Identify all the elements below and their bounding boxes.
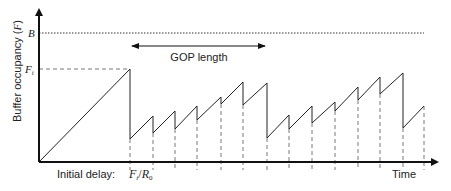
buffer-capacity-label: B bbox=[28, 27, 35, 39]
buffer-occupancy-diagram: GOP length B Fi Buffer occupancy (F) Tim… bbox=[0, 0, 451, 191]
x-axis-label: Time bbox=[392, 168, 416, 180]
y-axis-label: Buffer occupancy (F) bbox=[11, 20, 23, 122]
gop-length-label: GOP length bbox=[170, 51, 227, 63]
buffer-occupancy-curve bbox=[39, 69, 424, 162]
initial-delay-label: Initial delay: bbox=[57, 168, 115, 180]
initial-fill-label: Fi bbox=[24, 63, 34, 77]
frame-drop-markers bbox=[130, 94, 424, 170]
initial-delay-formula: Fi/R0 bbox=[128, 167, 153, 182]
